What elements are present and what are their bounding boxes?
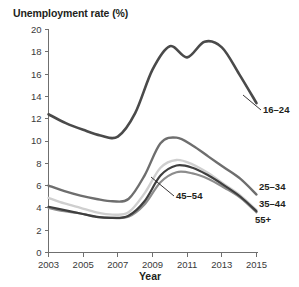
y-tick-label: 18 bbox=[31, 46, 42, 57]
x-tick-label: 2005 bbox=[73, 259, 94, 270]
x-tick-label: 2015 bbox=[246, 259, 267, 270]
y-tick-label: 2 bbox=[36, 225, 41, 236]
unemployment-rate-chart: Unemployment rate (%) 02468101214161820 … bbox=[0, 0, 299, 287]
label-55plus: 55+ bbox=[255, 214, 272, 225]
label-45-54: 45–54 bbox=[176, 190, 203, 201]
y-tick-label: 20 bbox=[31, 24, 42, 35]
series-lines bbox=[49, 41, 257, 218]
x-tick-label: 2007 bbox=[107, 259, 128, 270]
label-16-24: 16–24 bbox=[263, 104, 290, 115]
x-axis-ticks bbox=[49, 253, 257, 257]
y-tick-label: 16 bbox=[31, 69, 42, 80]
x-axis-title: Year bbox=[139, 270, 161, 282]
y-tick-label: 12 bbox=[31, 113, 42, 124]
x-tick-label: 2011 bbox=[177, 259, 197, 270]
y-tick-label: 10 bbox=[31, 135, 42, 146]
series-line-16-24 bbox=[49, 41, 257, 138]
y-tick-label: 0 bbox=[36, 247, 41, 258]
x-tick-label: 2003 bbox=[38, 259, 59, 270]
x-axis-tick-labels: 2003200520072009201120132015 bbox=[38, 259, 267, 270]
x-tick-label: 2009 bbox=[142, 259, 163, 270]
y-tick-label: 4 bbox=[36, 202, 41, 213]
y-tick-label: 6 bbox=[36, 180, 41, 191]
y-axis-ticks bbox=[45, 30, 49, 253]
axis-lines bbox=[49, 29, 259, 253]
y-axis-tick-labels: 02468101214161820 bbox=[31, 24, 42, 258]
x-tick-label: 2013 bbox=[211, 259, 232, 270]
label-35-44: 35–44 bbox=[259, 198, 286, 209]
chart-plot-area: 02468101214161820 2003200520072009201120… bbox=[0, 0, 299, 287]
label-25-34: 25–34 bbox=[259, 181, 286, 192]
y-tick-label: 14 bbox=[31, 91, 42, 102]
y-tick-label: 8 bbox=[36, 158, 41, 169]
